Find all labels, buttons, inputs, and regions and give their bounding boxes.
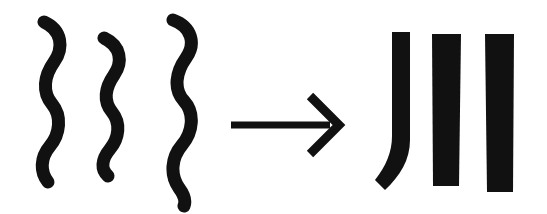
straight-bar-3 [485,34,514,192]
straight-bars-group [375,32,514,192]
diagram-canvas [0,0,547,214]
figure-root: Wavy lines transform into straight bars [0,0,547,214]
straight-bar-2 [432,34,461,186]
canvas-background [0,0,547,214]
